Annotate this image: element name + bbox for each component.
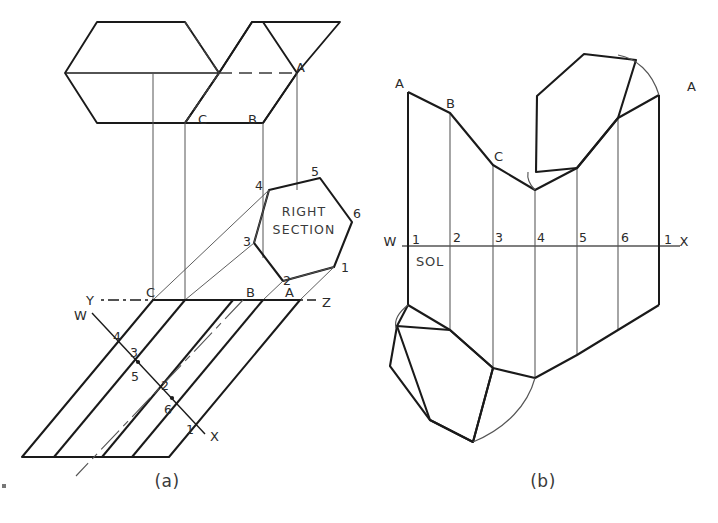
panel-a-caption: (a) — [154, 471, 179, 491]
label-section-2: 2 — [283, 273, 291, 288]
sol-number-1-left: 1 — [412, 232, 420, 247]
label-top-b: B — [248, 112, 257, 127]
sol-number-4: 4 — [537, 230, 545, 245]
sol-number-3: 3 — [495, 230, 503, 245]
label-cut-5: 5 — [131, 369, 139, 384]
panel-b-caption: (b) — [530, 471, 556, 491]
sol-number-2: 2 — [453, 230, 461, 245]
sol-number-6: 6 — [621, 230, 629, 245]
label-cut-2: 2 — [161, 378, 169, 393]
label-dev-a-right: A — [687, 79, 696, 94]
label-ground-c: C — [146, 285, 155, 300]
margin-tick-mark — [2, 484, 6, 488]
label-top-c: C — [198, 112, 207, 127]
label-top-a: A — [296, 60, 305, 75]
label-section-3: 3 — [243, 234, 251, 249]
right-section-label-line2: SECTION — [273, 222, 336, 237]
label-cut-3: 3 — [130, 345, 138, 360]
label-cut-w: W — [74, 308, 87, 323]
label-section-6: 6 — [353, 206, 361, 221]
right-section-label-line1: RIGHT — [282, 204, 327, 219]
sol-label: SOL — [416, 254, 444, 269]
label-sol-w: W — [383, 234, 396, 249]
label-cut-x: X — [210, 429, 219, 444]
label-section-5: 5 — [311, 164, 319, 179]
label-cut-1: 1 — [186, 422, 194, 437]
label-sol-x: X — [679, 234, 688, 249]
technical-drawing-svg: (a) A C B Y C B A Z 1 2 3 4 5 6 RIGHT SE… — [0, 0, 718, 523]
label-dev-b: B — [446, 96, 455, 111]
label-ground-b: B — [246, 285, 255, 300]
drawing-background — [0, 0, 718, 523]
figure-container: (a) A C B Y C B A Z 1 2 3 4 5 6 RIGHT SE… — [0, 0, 718, 523]
label-cut-6: 6 — [164, 402, 172, 417]
label-cut-4: 4 — [113, 329, 121, 344]
label-dev-c: C — [494, 149, 503, 164]
sol-number-1-right: 1 — [664, 232, 672, 247]
label-ground-z: Z — [322, 295, 331, 310]
label-section-4: 4 — [255, 178, 263, 193]
cut-dot-6 — [170, 396, 174, 400]
label-ground-y: Y — [85, 293, 94, 308]
cut-dot-3 — [136, 360, 140, 364]
label-dev-a-left: A — [395, 76, 404, 91]
label-section-1: 1 — [341, 260, 349, 275]
sol-number-5: 5 — [579, 230, 587, 245]
